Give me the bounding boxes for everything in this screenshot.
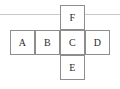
net-cell-label-a: A: [19, 38, 26, 48]
net-cell-label-f: F: [70, 13, 76, 23]
net-cell-e: E: [60, 55, 85, 80]
net-cell-c: C: [60, 30, 85, 55]
net-cell-label-d: D: [94, 38, 101, 48]
net-cell-label-e: E: [69, 63, 75, 73]
net-cell-f: F: [60, 5, 85, 30]
net-cell-label-b: B: [44, 38, 51, 48]
net-cell-label-c: C: [69, 38, 76, 48]
net-cell-a: A: [10, 30, 35, 55]
net-cell-d: D: [85, 30, 110, 55]
cube-net-figure: F A B C D E: [0, 0, 120, 89]
net-cell-b: B: [35, 30, 60, 55]
